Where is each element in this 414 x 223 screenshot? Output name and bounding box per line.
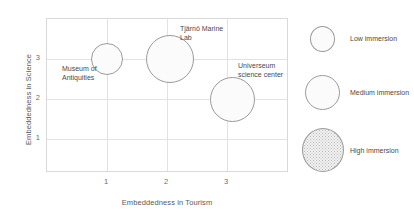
gridline-horizontal-1 — [47, 139, 287, 140]
legend-bubble-low-immersion — [310, 26, 335, 52]
bubble-chart-figure: Museum of Antiquities Tjärnö Marine Lab … — [0, 0, 414, 223]
plot-area — [46, 18, 288, 172]
bubble-universeum-science-center[interactable] — [210, 77, 255, 122]
y-axis-title: Embeddedness in Science — [24, 25, 33, 175]
legend-label-low-immersion: Low immersion — [350, 34, 397, 43]
bubble-tjarno-marine-lab[interactable] — [146, 35, 194, 83]
point-label-tjarno-marine-lab: Tjärnö Marine Lab — [180, 25, 228, 42]
legend: Low immersion Medium immersion High imme… — [300, 12, 414, 187]
legend-item-low-immersion[interactable]: Low immersion — [300, 24, 414, 54]
legend-bubble-medium-immersion — [305, 75, 340, 110]
legend-label-high-immersion: High immersion — [350, 146, 399, 155]
x-axis-title: Embeddedness in Tourism — [46, 198, 288, 207]
x-tick-1: 1 — [96, 177, 116, 186]
point-label-universeum-science-center: Universeum science center — [238, 62, 288, 79]
legend-label-medium-immersion: Medium immersion — [350, 88, 409, 97]
x-tick-2: 2 — [156, 177, 176, 186]
legend-item-high-immersion[interactable]: High immersion — [300, 128, 414, 176]
gridline-vertical-1 — [107, 19, 108, 171]
legend-bubble-high-immersion — [302, 128, 344, 172]
x-tick-3: 3 — [216, 177, 236, 186]
legend-item-medium-immersion[interactable]: Medium immersion — [300, 74, 414, 114]
point-label-museum-of-antiquities: Museum of Antiquities — [62, 65, 106, 82]
